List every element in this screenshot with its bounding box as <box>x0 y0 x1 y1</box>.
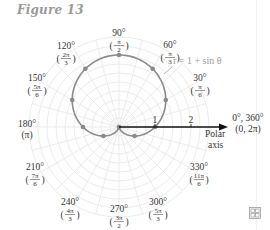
grid-radial <box>74 127 119 205</box>
svg-text:5π: 5π <box>33 83 41 91</box>
svg-text:(: ( <box>60 210 63 221</box>
svg-text:(: ( <box>189 175 192 186</box>
equation-label: r = 1 + sin θ <box>173 55 222 66</box>
svg-text:5π: 5π <box>154 207 162 215</box>
curve-point <box>163 98 168 103</box>
svg-text:330°: 330° <box>190 162 208 172</box>
curve-point <box>70 98 75 103</box>
svg-text:300°: 300° <box>149 197 167 207</box>
svg-text:): ) <box>206 86 209 97</box>
angle-label-90: 90°()π2 <box>109 28 128 54</box>
angle-label-300: 300°()5π3 <box>148 197 167 223</box>
svg-text:): ) <box>205 175 208 186</box>
polar-axis-label-line2: axis <box>208 140 224 150</box>
svg-text:90°: 90° <box>112 28 126 38</box>
curve-point <box>150 66 155 71</box>
polar-axis-label-line1: Polar <box>205 129 226 139</box>
svg-text:π: π <box>198 83 202 91</box>
grid-radial <box>41 127 119 172</box>
svg-text:): ) <box>41 175 44 186</box>
grid-radial <box>41 82 119 127</box>
grid-radial <box>119 82 197 127</box>
svg-text:210°: 210° <box>26 162 44 172</box>
svg-text:(: ( <box>109 217 112 228</box>
angle-label-0: 0°, 360°(0, 2π) <box>232 113 264 135</box>
svg-text:(: ( <box>160 53 163 64</box>
axis-tick-label: 1 <box>153 115 158 125</box>
svg-text:(: ( <box>148 210 151 221</box>
svg-text:6: 6 <box>33 180 37 188</box>
angle-label-330: 330°()11π6 <box>189 162 208 188</box>
curve-point <box>81 125 86 130</box>
svg-text:): ) <box>43 86 46 97</box>
svg-text:): ) <box>125 217 128 228</box>
svg-text:4π: 4π <box>66 207 74 215</box>
grid-radial <box>119 127 197 172</box>
svg-text:(: ( <box>190 86 193 97</box>
svg-text:2: 2 <box>117 222 121 230</box>
svg-text:6: 6 <box>197 180 201 188</box>
grid-radial <box>119 127 164 205</box>
svg-text:240°: 240° <box>61 197 79 207</box>
grid-radial <box>32 127 119 150</box>
curve-point <box>132 134 137 139</box>
angle-label-240: 240°()4π3 <box>60 197 79 223</box>
grid-radial <box>119 40 142 127</box>
grid-radial <box>119 127 142 214</box>
angle-label-180: 180°(π) <box>18 119 36 141</box>
grid-radial <box>96 40 119 127</box>
angle-label-30: 30°()π6 <box>190 73 209 99</box>
svg-text:3: 3 <box>156 215 160 223</box>
axis-tick-label: 2 <box>189 115 194 125</box>
svg-text:3π: 3π <box>115 214 123 222</box>
svg-text:(: ( <box>25 175 28 186</box>
svg-text:2π: 2π <box>62 51 70 59</box>
svg-text:π: π <box>168 50 172 58</box>
polar-chart: 12 0°, 360°(0, 2π)30°()π660°()π390°()π21… <box>0 0 270 230</box>
svg-text:(: ( <box>109 41 112 52</box>
svg-text:): ) <box>164 210 167 221</box>
svg-text:(0, 2π): (0, 2π) <box>235 124 260 135</box>
angle-label-150: 150°()5π6 <box>27 73 46 99</box>
svg-text:6: 6 <box>198 91 202 99</box>
svg-text:6: 6 <box>35 91 39 99</box>
grid-radial <box>119 127 206 150</box>
svg-text:11π: 11π <box>194 172 205 180</box>
svg-text:270°: 270° <box>110 204 128 214</box>
svg-text:3: 3 <box>64 59 68 67</box>
grid-radial <box>96 127 119 214</box>
svg-text:(: ( <box>27 86 30 97</box>
svg-text:π: π <box>117 38 121 46</box>
svg-text:): ) <box>76 210 79 221</box>
curve-point <box>101 134 106 139</box>
svg-text:3: 3 <box>168 58 172 66</box>
svg-text:(: ( <box>56 54 59 65</box>
angle-label-210: 210°()7π6 <box>25 162 44 188</box>
svg-text:180°: 180° <box>18 119 36 129</box>
svg-text:2: 2 <box>117 46 121 54</box>
grid-table-icon[interactable] <box>249 207 261 219</box>
svg-text:(π): (π) <box>21 130 32 141</box>
curve-point <box>83 66 88 71</box>
svg-text:60°: 60° <box>163 40 177 50</box>
equation-leader-line <box>164 67 172 74</box>
svg-text:3: 3 <box>68 215 72 223</box>
svg-text:): ) <box>125 41 128 52</box>
svg-text:120°: 120° <box>57 41 75 51</box>
svg-text:0°, 360°: 0°, 360° <box>232 113 264 123</box>
svg-text:30°: 30° <box>193 73 207 83</box>
svg-text:): ) <box>72 54 75 65</box>
svg-text:7π: 7π <box>31 172 39 180</box>
svg-text:150°: 150° <box>28 73 46 83</box>
angle-label-120: 120°()2π3 <box>56 41 75 67</box>
angle-label-270: 270°()3π2 <box>109 204 128 230</box>
